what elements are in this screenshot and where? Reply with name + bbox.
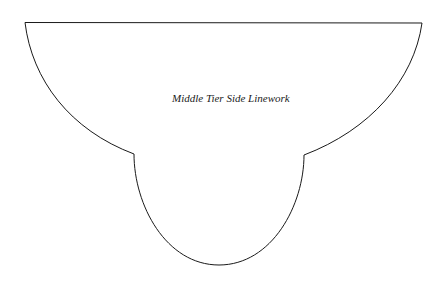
top-tier-outline (25, 23, 422, 266)
diagram-label: Middle Tier Side Linework (172, 92, 286, 104)
linework-diagram: Middle Tier Side Linework (0, 0, 441, 291)
outline-shape (0, 0, 441, 291)
